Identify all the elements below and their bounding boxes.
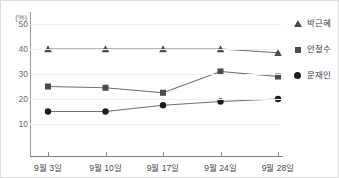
circle-marker-icon bbox=[292, 70, 303, 81]
legend-item-label: 박근혜 bbox=[307, 18, 331, 29]
x-axis-tick bbox=[221, 152, 222, 157]
x-axis-tick-label: 9월 28일 bbox=[248, 161, 308, 173]
x-axis-tick-label: 9월 17일 bbox=[133, 161, 193, 173]
square-marker-icon bbox=[292, 44, 303, 55]
legend-item-label: 문재인 bbox=[307, 70, 331, 81]
x-axis-tick bbox=[278, 152, 279, 157]
x-axis-tick-label: 9월 24일 bbox=[191, 161, 251, 173]
legend-item-label: 안철수 bbox=[307, 44, 331, 55]
legend-item[interactable]: 박근혜 bbox=[292, 18, 339, 29]
x-axis-tick-label: 9월 10일 bbox=[76, 161, 136, 173]
x-axis-tick bbox=[106, 152, 107, 157]
legend-item[interactable]: 안철수 bbox=[292, 44, 339, 55]
poll-line-chart: (%) 1020304050 9월 3일9월 10일9월 17일9월 24일9월… bbox=[0, 0, 339, 178]
x-axis-tick-label: 9월 3일 bbox=[18, 161, 78, 173]
x-axis-tick bbox=[163, 152, 164, 157]
x-axis-labels: 9월 3일9월 10일9월 17일9월 24일9월 28일 bbox=[0, 0, 339, 178]
chart-legend: 박근혜안철수문재인 bbox=[292, 18, 339, 96]
legend-item[interactable]: 문재인 bbox=[292, 70, 339, 81]
x-axis-tick bbox=[48, 152, 49, 157]
triangle-marker-icon bbox=[292, 18, 303, 29]
